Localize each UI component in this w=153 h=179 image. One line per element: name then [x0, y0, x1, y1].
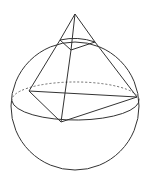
apex-right: [75, 14, 95, 42]
top-quad-front: [60, 40, 95, 50]
edge-right: [95, 42, 137, 97]
top-quad-back: [60, 38, 95, 42]
edge-front: [61, 50, 71, 122]
sphere-pyramid-diagram: [0, 0, 153, 179]
sphere-outline: [11, 42, 139, 170]
